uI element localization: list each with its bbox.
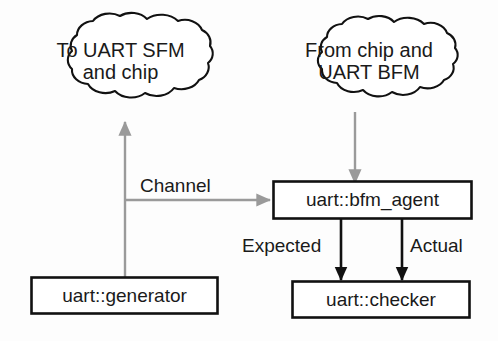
cloud-left-node[interactable] xyxy=(28,14,212,118)
cloud-right-node[interactable] xyxy=(278,18,460,110)
checker-node[interactable] xyxy=(292,281,470,318)
generator-node[interactable] xyxy=(31,277,218,314)
bfm-agent-node[interactable] xyxy=(273,181,472,219)
diagram-canvas: To UART SFM and chip From chip and UART … xyxy=(0,0,498,341)
